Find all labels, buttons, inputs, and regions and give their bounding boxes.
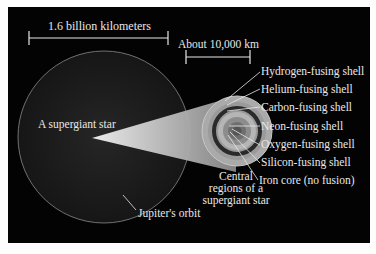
scale-label-large: 1.6 billion kilometers: [48, 20, 151, 33]
scale-label-small: About 10,000 km: [178, 38, 259, 51]
scale-bar-small: [186, 50, 250, 64]
shell-label-hydrogen: Hydrogen-fusing shell: [261, 65, 364, 78]
shell-label-silicon: Silicon-fusing shell: [261, 156, 351, 169]
shell-label-helium: Helium-fusing shell: [261, 83, 353, 96]
orbit-label: Jupiter's orbit: [138, 207, 200, 220]
star-label: A supergiant star: [38, 118, 116, 131]
shell-label-neon: Neon-fusing shell: [261, 120, 343, 133]
shell-label-carbon: Carbon-fusing shell: [261, 101, 352, 114]
scale-bar-large: [29, 31, 168, 45]
shell-label-iron-core: Iron core (no fusion): [259, 174, 354, 187]
shell-label-oxygen: Oxygen-fusing shell: [261, 138, 355, 151]
central-regions-line3: supergiant star: [196, 194, 276, 206]
